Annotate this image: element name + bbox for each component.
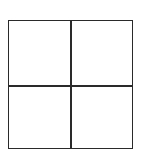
grid-cell-bottom-right	[71, 86, 131, 147]
diagram-canvas	[0, 0, 142, 160]
two-by-two-grid	[8, 20, 133, 149]
grid-cell-top-right	[71, 21, 131, 85]
grid-cell-top-left	[9, 21, 70, 85]
horizontal-divider	[9, 85, 132, 87]
grid-cell-bottom-left	[9, 86, 70, 147]
